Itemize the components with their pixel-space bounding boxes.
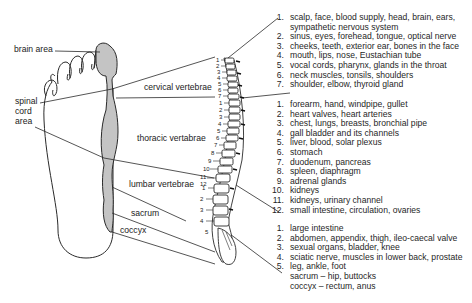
label-cervical-vertebrae: cervical vertebrae — [144, 82, 212, 92]
vertebra-number: 7 — [218, 93, 221, 99]
list-item: 12.small intestine, circulation, ovaries — [290, 206, 427, 216]
label-thoracic-vertebrae: thoracic vertabrae — [137, 133, 206, 143]
vertebra-number: 2 — [219, 107, 222, 113]
label-sacrum: sacrum — [131, 208, 159, 218]
vertebra-number: 11 — [200, 174, 206, 180]
vertebra-number: 4 — [218, 121, 221, 127]
label-line: spinal — [15, 96, 37, 106]
label-line: cord — [15, 106, 37, 116]
vertebra-number: 9 — [208, 158, 211, 164]
list-cervical: 1.scalp, face, blood supply, head, brain… — [290, 13, 459, 90]
vertebra-number: 3 — [200, 207, 203, 213]
spinal-reflex-area — [96, 43, 118, 232]
label-coccyx: coccyx — [120, 225, 146, 235]
vertebra-number: 6 — [216, 135, 219, 141]
vertebra-number: 3 — [219, 114, 222, 120]
vertebra-number: 1 — [219, 100, 222, 106]
list-lumbar: 1.large intestine 2.abdomen, appendix, t… — [290, 224, 462, 291]
label-lumbar-vertebrae: lumbar vertebrae — [129, 179, 194, 189]
list-thoracic: 1.forearm, hand, windpipe, gullet 2.hear… — [290, 100, 427, 215]
vertebra-number: 2 — [200, 196, 203, 202]
label-spinal-cord-area: spinal cord area — [15, 96, 37, 126]
vertebra-number: 10 — [203, 166, 210, 172]
list-item: 7.shoulder, elbow, thyroid gland — [290, 80, 459, 90]
vertebra-number: 7 — [214, 142, 217, 148]
vertebra-number: 5 — [205, 229, 208, 235]
vertebra-number: 1 — [202, 185, 205, 191]
vertebra-number: 8 — [211, 150, 214, 156]
vertebra-number: 4 — [200, 218, 203, 224]
label-line: area — [15, 116, 37, 126]
list-item: coccyx – rectum, anus — [290, 282, 462, 292]
label-brain-area: brain area — [14, 44, 53, 54]
vertebra-number: 5 — [217, 128, 220, 134]
